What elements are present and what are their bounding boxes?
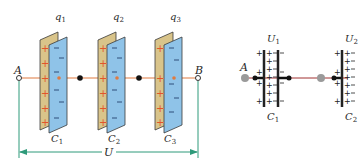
- svg-text:+: +: [99, 43, 107, 54]
- capacitor-c2: +++ +++: [98, 32, 125, 133]
- capacitor-c2-schematic: ++++ ++++ +++ U2 C2: [334, 33, 358, 124]
- label-c3: C3: [164, 133, 176, 146]
- svg-text:+: +: [256, 97, 263, 106]
- svg-text:+: +: [156, 43, 164, 54]
- svg-text:+: +: [334, 49, 341, 58]
- svg-text:+: +: [344, 97, 351, 106]
- svg-text:+: +: [334, 79, 341, 88]
- label-c2: C2: [108, 133, 120, 146]
- negative-plate: [164, 37, 182, 133]
- svg-text:+: +: [41, 117, 49, 128]
- label-a: A: [13, 64, 22, 77]
- capacitor-c1: +++ +++: [40, 32, 67, 133]
- junction-node: [136, 75, 142, 81]
- negative-plate: [107, 37, 125, 133]
- svg-text:+: +: [156, 88, 164, 99]
- svg-text:+: +: [41, 73, 49, 84]
- svg-text:+: +: [99, 117, 107, 128]
- svg-text:+: +: [41, 58, 49, 69]
- right-diagram: A ++++ ++++ +++ U1 C1: [239, 33, 358, 124]
- svg-text:+: +: [41, 88, 49, 99]
- svg-text:+: +: [99, 58, 107, 69]
- label-u2: U2: [345, 33, 358, 46]
- svg-text:+: +: [156, 117, 164, 128]
- label-c1: C1: [51, 133, 63, 146]
- svg-text:+: +: [41, 103, 49, 114]
- terminal-a: [241, 74, 249, 82]
- series-capacitors-figure: +++ +++ +++ +++: [0, 0, 359, 168]
- svg-text:+: +: [334, 68, 341, 77]
- svg-text:+: +: [334, 97, 341, 106]
- label-q3: q3: [170, 11, 181, 24]
- svg-text:+: +: [99, 88, 107, 99]
- label-b: B: [194, 64, 203, 77]
- junction-node: [317, 74, 325, 82]
- capacitor-c3: ++ +++: [155, 32, 182, 133]
- label-c1: C1: [267, 111, 279, 124]
- svg-text:+: +: [256, 49, 263, 58]
- svg-text:+: +: [99, 103, 107, 114]
- svg-text:+: +: [41, 43, 49, 54]
- label-u1: U1: [267, 33, 280, 46]
- label-q1: q1: [55, 11, 66, 24]
- junction-node: [77, 75, 83, 81]
- svg-text:+: +: [156, 73, 164, 84]
- label-u: U: [104, 146, 114, 159]
- left-diagram: +++ +++ +++ +++: [13, 11, 203, 159]
- svg-text:+: +: [156, 103, 164, 114]
- svg-text:+: +: [266, 97, 273, 106]
- label-q2: q2: [113, 11, 124, 24]
- label-c2: C2: [345, 111, 357, 124]
- svg-text:+: +: [256, 68, 263, 77]
- svg-text:+: +: [99, 73, 107, 84]
- svg-text:+: +: [256, 79, 263, 88]
- negative-plate: [49, 37, 67, 133]
- label-a: A: [239, 61, 248, 74]
